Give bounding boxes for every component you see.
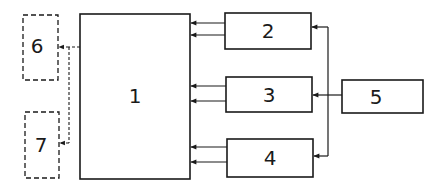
block-4-label: 4 <box>264 146 277 170</box>
block-3: 3 <box>226 77 312 112</box>
block-diagram: 1 2 3 4 5 6 7 <box>0 0 445 193</box>
connector-3-to-1 <box>191 86 226 101</box>
connector-4-to-1 <box>191 147 227 162</box>
block-2-label: 2 <box>262 19 275 43</box>
block-3-label: 3 <box>263 83 276 107</box>
block-2: 2 <box>225 13 311 49</box>
connector-2-to-1 <box>191 23 225 35</box>
block-7: 7 <box>25 112 59 178</box>
block-1: 1 <box>80 14 190 179</box>
connector-5-bus <box>312 27 342 156</box>
block-6-label: 6 <box>31 34 44 58</box>
block-5: 5 <box>342 80 423 113</box>
block-1-label: 1 <box>129 84 142 108</box>
block-4: 4 <box>227 139 313 177</box>
block-5-label: 5 <box>370 85 383 109</box>
block-7-label: 7 <box>35 133 48 157</box>
block-6: 6 <box>23 15 58 80</box>
connector-1-to-6-7 <box>59 47 80 143</box>
